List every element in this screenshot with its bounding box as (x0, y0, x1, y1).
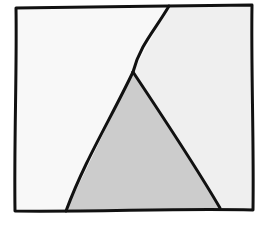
diagram-canvas (0, 0, 266, 227)
